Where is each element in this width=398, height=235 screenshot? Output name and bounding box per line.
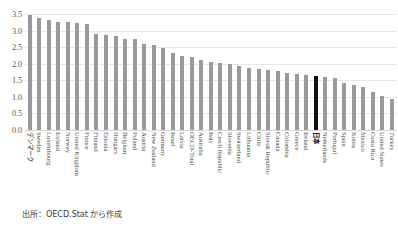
bar-slot bbox=[340, 14, 350, 130]
bar bbox=[161, 48, 165, 130]
y-axis-tick-label: 2.0 bbox=[0, 60, 22, 69]
x-axis-label-slot: Switzerland bbox=[235, 131, 245, 207]
x-axis-tick-label: Mexico bbox=[360, 132, 367, 152]
bar-slot bbox=[101, 14, 111, 130]
bar-slot bbox=[92, 14, 102, 130]
bar bbox=[190, 57, 194, 130]
x-axis-tick-label: Colombia bbox=[284, 132, 291, 158]
x-axis-tick-label: Lithuania bbox=[246, 132, 253, 157]
bar-slot bbox=[25, 14, 35, 130]
chart-title-sliver bbox=[70, 0, 310, 6]
bar bbox=[28, 15, 32, 130]
x-axis-label-slot: Germany bbox=[158, 131, 168, 207]
x-axis-tick-label: Slovenia bbox=[227, 132, 234, 155]
bar-series bbox=[25, 14, 397, 130]
bar bbox=[333, 78, 337, 130]
x-axis-label-slot: Sweden bbox=[35, 131, 45, 207]
x-axis-label-slot: Austria bbox=[139, 131, 149, 207]
bar bbox=[266, 70, 270, 130]
x-axis-label-slot: France bbox=[82, 131, 92, 207]
bar bbox=[133, 39, 137, 130]
bar-slot bbox=[111, 14, 121, 130]
x-axis-label-slot: Netherlands bbox=[320, 131, 330, 207]
bar-slot bbox=[178, 14, 188, 130]
bar bbox=[152, 45, 156, 130]
bar-slot bbox=[206, 14, 216, 130]
x-axis-label-slot: 日本 bbox=[311, 131, 321, 207]
bar bbox=[276, 71, 280, 130]
plot-area bbox=[25, 14, 397, 130]
x-axis-label-slot: Canada bbox=[273, 131, 283, 207]
x-axis-label-slot: Estonia bbox=[101, 131, 111, 207]
x-axis-tick-label: Ireland bbox=[303, 132, 310, 150]
bar-slot bbox=[216, 14, 226, 130]
x-axis-label-slot: United States bbox=[378, 131, 388, 207]
x-axis-tick-label: Australia bbox=[198, 132, 205, 156]
bar bbox=[123, 39, 127, 130]
x-axis-tick-label: Estonia bbox=[103, 132, 110, 151]
bar-slot bbox=[187, 14, 197, 130]
source-note: 出所：OECD.Stat から作成 bbox=[22, 210, 122, 220]
bar bbox=[285, 73, 289, 130]
x-axis-label-slot: Norway bbox=[63, 131, 73, 207]
bar bbox=[199, 60, 203, 130]
x-axis-tick-label: Chile bbox=[255, 132, 262, 146]
x-axis-label-slot: Spain bbox=[340, 131, 350, 207]
x-axis-tick-label: OECD-Total bbox=[189, 132, 196, 165]
bar bbox=[180, 56, 184, 130]
y-axis-tick-label: 1.5 bbox=[0, 76, 22, 85]
bar-slot bbox=[120, 14, 130, 130]
bar-slot bbox=[139, 14, 149, 130]
bar-slot bbox=[54, 14, 64, 130]
bar bbox=[390, 99, 394, 130]
x-axis-tick-label: Costa Rica bbox=[370, 132, 377, 160]
bar-slot bbox=[82, 14, 92, 130]
bar-slot bbox=[63, 14, 73, 130]
bar bbox=[304, 75, 308, 130]
y-axis-tick-label: 1.0 bbox=[0, 93, 22, 102]
bar-slot bbox=[244, 14, 254, 130]
bar-slot bbox=[378, 14, 388, 130]
x-axis-tick-label: Belgium bbox=[122, 132, 129, 154]
x-axis-label-slot: Belgium bbox=[120, 131, 130, 207]
bar-slot bbox=[44, 14, 54, 130]
bar-slot bbox=[301, 14, 311, 130]
x-axis-tick-label: Iceland bbox=[55, 132, 62, 151]
bar-slot bbox=[368, 14, 378, 130]
bar-slot bbox=[35, 14, 45, 130]
bar bbox=[237, 66, 241, 130]
bar bbox=[104, 35, 108, 130]
x-axis-label-slot: Portugal bbox=[330, 131, 340, 207]
x-axis-tick-label: 日本 bbox=[312, 132, 319, 144]
x-axis-tick-label: Luxembourg bbox=[46, 132, 53, 165]
x-axis-label-slot: Korea bbox=[349, 131, 359, 207]
bar-slot bbox=[282, 14, 292, 130]
x-axis-label-slot: Poland bbox=[130, 131, 140, 207]
x-axis-label-slot: デンマーク bbox=[25, 131, 35, 207]
bar-slot bbox=[292, 14, 302, 130]
y-axis-tick-label: 0.5 bbox=[0, 109, 22, 118]
x-axis-label-slot: Slovak Republic bbox=[263, 131, 273, 207]
bar bbox=[171, 53, 175, 130]
bar bbox=[142, 44, 146, 131]
bar bbox=[56, 22, 60, 130]
x-axis-tick-label: Netherlands bbox=[322, 132, 329, 163]
bar-slot bbox=[235, 14, 245, 130]
bar bbox=[323, 77, 327, 130]
x-axis-tick-label: Norway bbox=[65, 132, 72, 153]
bar bbox=[114, 36, 118, 130]
y-axis-tick-label: 3.5 bbox=[0, 10, 22, 19]
x-axis-label-slot: Iceland bbox=[54, 131, 64, 207]
bar-slot bbox=[387, 14, 397, 130]
bar-slot bbox=[158, 14, 168, 130]
bar bbox=[209, 62, 213, 130]
x-axis-label-slot: Ireland bbox=[301, 131, 311, 207]
x-axis-label-slot: Latvia bbox=[178, 131, 188, 207]
bar bbox=[247, 68, 251, 130]
x-axis-label-slot: Hungary bbox=[111, 131, 121, 207]
x-axis-tick-label: Korea bbox=[351, 132, 358, 148]
bar bbox=[37, 18, 41, 130]
x-axis-label-slot: Mexico bbox=[359, 131, 369, 207]
x-axis-label-slot: OECD-Total bbox=[187, 131, 197, 207]
bar bbox=[352, 85, 356, 130]
